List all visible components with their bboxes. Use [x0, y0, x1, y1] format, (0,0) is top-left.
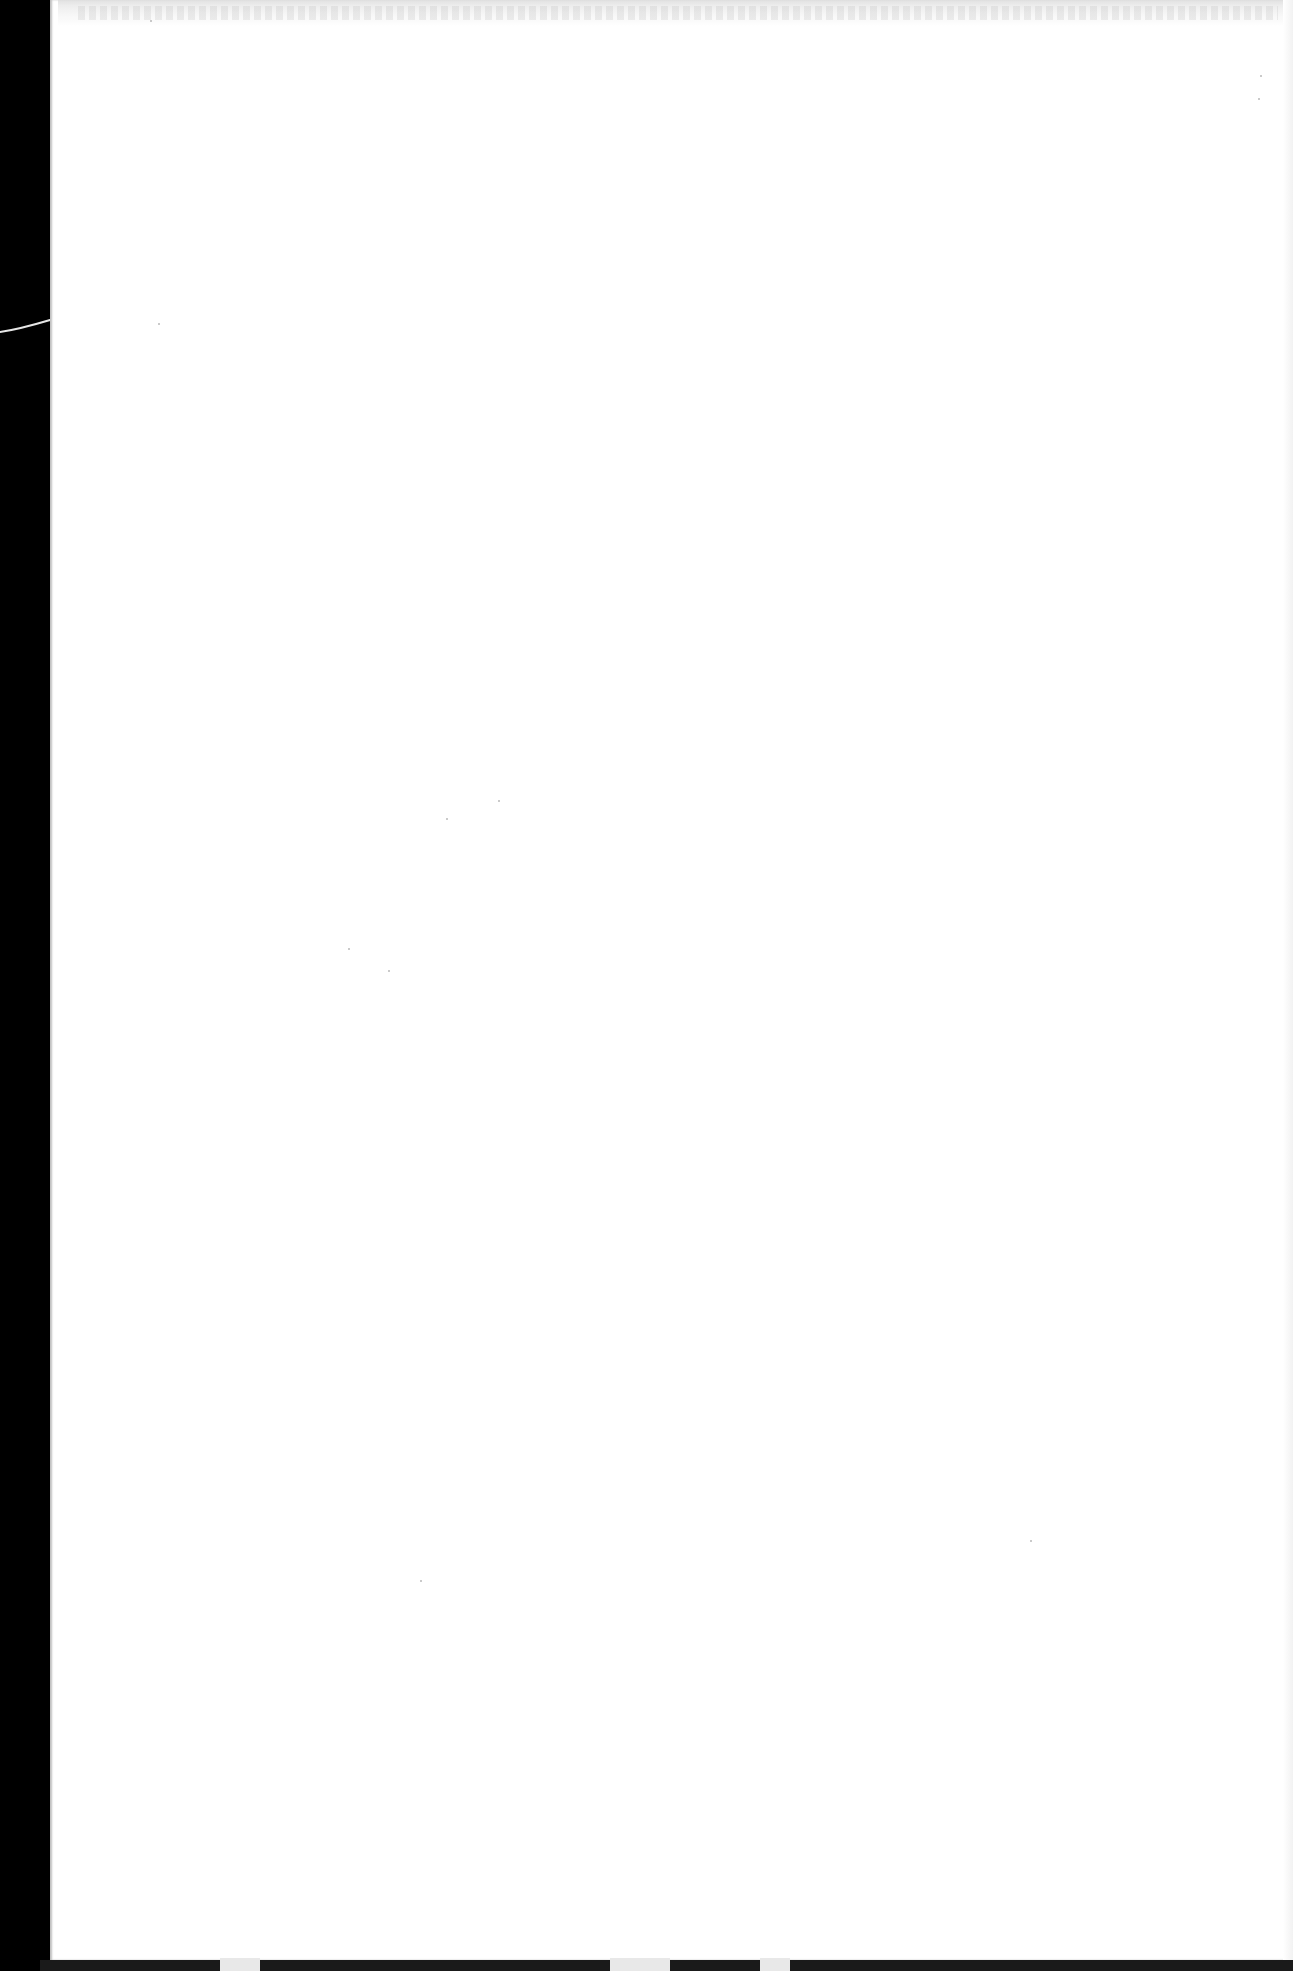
dust-speck	[150, 20, 152, 22]
dust-speck	[420, 1580, 422, 1582]
blank-page	[50, 0, 1293, 1960]
dust-speck	[498, 800, 500, 802]
bottom-edge-gap	[610, 1958, 670, 1971]
page-content	[50, 0, 1293, 1960]
bottom-edge-gap	[220, 1958, 260, 1971]
dust-speck	[348, 948, 350, 950]
bottom-edge-gap	[760, 1958, 790, 1971]
dust-speck	[158, 323, 160, 325]
scanner-background	[0, 0, 50, 1971]
dust-speck	[446, 818, 448, 820]
dust-speck	[1030, 1540, 1032, 1542]
dust-speck	[1260, 75, 1262, 77]
dust-speck	[388, 970, 390, 972]
scan-canvas	[0, 0, 1293, 1971]
dust-speck	[1258, 98, 1260, 100]
fiber-artifact	[0, 300, 52, 340]
